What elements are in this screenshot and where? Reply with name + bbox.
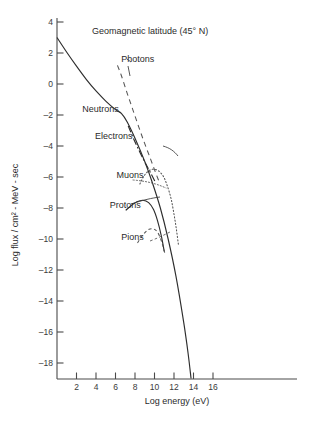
x-tick-label: 6 [113, 382, 118, 392]
series-label-protons: Protons [110, 200, 142, 210]
axes-group [57, 18, 297, 379]
series-label-pions: Pions [121, 232, 144, 242]
y-tick-label: –6 [44, 172, 54, 182]
y-tick-label: –2 [44, 110, 54, 120]
muons-leader-line [133, 180, 166, 188]
x-tick-label: 14 [189, 382, 199, 392]
x-tick-label: 16 [208, 382, 218, 392]
series-label-photons: Photons [121, 54, 155, 64]
x-axis-ticks: 246810121416 [74, 373, 218, 393]
y-tick-label: –18 [39, 358, 53, 368]
y-tick-label: –12 [39, 265, 53, 275]
y-tick-label: –14 [39, 296, 53, 306]
series-labels-group: NeutronsPhotonsElectronsMuonsProtonsPion… [82, 54, 155, 241]
y-axis-label: Log flux / cm² - MeV - sec [10, 163, 20, 266]
series-label-electrons: Electrons [95, 131, 133, 141]
y-tick-label: 2 [48, 48, 53, 58]
y-tick-label: –16 [39, 327, 53, 337]
x-tick-label: 10 [150, 382, 160, 392]
y-tick-label: 4 [48, 17, 53, 27]
series-label-muons: Muons [116, 170, 144, 180]
leader-lines-group [127, 59, 178, 241]
x-axis-label: Log energy (eV) [145, 396, 210, 406]
y-tick-label: –4 [44, 141, 54, 151]
curve-photons [117, 65, 159, 182]
chart-title: Geomagnetic latitude (45° N) [92, 26, 208, 36]
y-tick-label: 0 [48, 79, 53, 89]
y-axis-ticks: 420–2–4–6–8–10–12–14–16–18 [39, 17, 64, 368]
y-tick-label: –10 [39, 234, 53, 244]
x-tick-label: 4 [94, 382, 99, 392]
electrons-leader-line [163, 146, 178, 156]
x-tick-label: 2 [74, 382, 79, 392]
chart-figure: 420–2–4–6–8–10–12–14–16–18 246810121416 … [0, 0, 310, 428]
x-tick-label: 12 [169, 382, 179, 392]
x-tick-label: 8 [133, 382, 138, 392]
chart-plot-area: 420–2–4–6–8–10–12–14–16–18 246810121416 … [0, 0, 310, 428]
y-tick-label: –8 [44, 203, 54, 213]
curve-muons [140, 169, 179, 244]
series-label-neutrons: Neutrons [82, 104, 119, 114]
